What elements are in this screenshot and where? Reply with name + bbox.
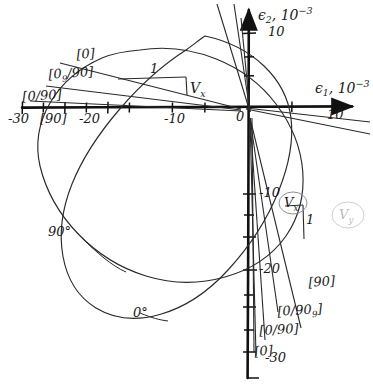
laminate-label-left-0: [0]	[76, 47, 95, 61]
x-tick-label--20: -20	[79, 112, 100, 125]
curve-label-90deg: 90°	[48, 225, 71, 238]
curve-label-0deg: 0°	[133, 306, 148, 319]
figure-canvas	[0, 0, 373, 392]
laminate-label-bottom-90: [90]	[308, 274, 336, 289]
laminate-label-bottom-0-909: [0/909]	[277, 302, 323, 321]
y-tick-label--20: -20	[259, 262, 280, 275]
x-tick-label--30: -30	[8, 112, 29, 125]
circled-vx-label: Vx	[284, 196, 298, 212]
y-axis-ticks	[243, 33, 259, 378]
laminate-label-left-0-90: [0/90]	[22, 88, 62, 103]
leader-90deg	[82, 238, 126, 272]
circled-vy-label: Vy	[339, 208, 353, 224]
laminate-label-bottom-0: [0]	[254, 344, 273, 358]
slope-rise-label-vx: Vx	[190, 81, 205, 98]
y-tick-label-10: 10	[268, 25, 285, 38]
envelope-curve-90deg	[38, 48, 303, 282]
curve-label-leaders	[82, 238, 168, 321]
x-axis-title: ϵ1, 10−3	[315, 79, 369, 98]
x-axis-line	[22, 106, 352, 107]
ray-lines-right	[246, 108, 370, 134]
ray-line-axis-parallel	[252, 118, 254, 352]
x-tick-label-10: 10	[327, 108, 344, 121]
y-axis-title: ϵ2, 10−3	[258, 6, 312, 25]
laminate-label-bottom-0-90: [0/90]	[259, 322, 299, 337]
y-tick-label--10: -10	[259, 186, 280, 199]
strain-envelope-figure: ϵ2, 10−3 ϵ1, 10−3 0 -30 -20 -10 10 10 -1…	[0, 0, 373, 392]
ray-line-0-909-right	[246, 109, 370, 134]
envelope-curve-0deg	[61, 36, 291, 318]
slope-run-label: 1	[150, 62, 158, 75]
x-tick-label--10: -10	[164, 112, 185, 125]
origin-label: 0	[236, 110, 244, 123]
slope-lower-rise-label: 1	[306, 213, 314, 226]
ray-lines-steep-up	[217, 4, 250, 112]
laminate-label-left-09-90: [09/90]	[48, 65, 94, 84]
ray-line-90-right	[246, 108, 370, 122]
laminate-label-left-90: [90]	[40, 112, 67, 125]
